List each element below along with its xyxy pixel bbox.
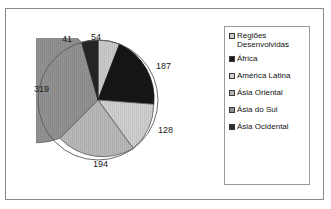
- data-label-regioes-desenvolvidas: 54: [91, 33, 101, 42]
- plot-area: 41 54 187 128 194 319 Regiões Desenvolvi…: [0, 0, 331, 209]
- legend-swatch-asia-oriental: [229, 90, 235, 96]
- chart-legend: Regiões Desenvolvidas África América Lat…: [224, 26, 310, 185]
- legend-swatch-america-latina: [229, 73, 235, 79]
- legend-label-asia-oriental: Ásia Oriental: [237, 88, 283, 97]
- data-label-asia-ocidental: 41: [62, 35, 72, 44]
- legend-item-asia-oriental: Ásia Oriental: [229, 88, 306, 97]
- legend-item-regioes-desenvolvidas: Regiões Desenvolvidas: [229, 31, 306, 49]
- legend-swatch-regioes-desenvolvidas: [229, 33, 235, 39]
- legend-swatch-africa: [229, 56, 235, 62]
- data-label-america-latina: 128: [158, 126, 173, 135]
- chart-screenshot: 41 54 187 128 194 319 Regiões Desenvolvi…: [0, 0, 331, 209]
- legend-item-asia-ocidental: Ásia Ocidental: [229, 122, 306, 131]
- legend-item-africa: África: [229, 54, 306, 63]
- legend-label-africa: África: [237, 54, 257, 63]
- data-label-africa: 187: [156, 62, 171, 71]
- legend-item-asia-do-sul: Ásia do Sul: [229, 105, 306, 114]
- legend-label-america-latina: América Latina: [237, 71, 290, 80]
- legend-label-asia-ocidental: Ásia Ocidental: [237, 122, 289, 131]
- pie-chart: [36, 38, 160, 162]
- legend-label-regioes-desenvolvidas: Regiões Desenvolvidas: [237, 31, 289, 49]
- legend-swatch-asia-do-sul: [229, 107, 235, 113]
- data-label-asia-oriental: 194: [93, 160, 108, 169]
- legend-label-asia-do-sul: Ásia do Sul: [237, 105, 277, 114]
- data-label-asia-do-sul: 319: [34, 85, 49, 94]
- legend-swatch-asia-ocidental: [229, 124, 235, 130]
- legend-item-america-latina: América Latina: [229, 71, 306, 80]
